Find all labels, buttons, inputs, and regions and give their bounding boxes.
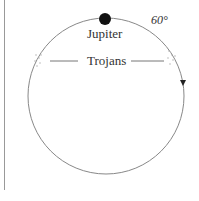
- direction-arrow-icon: [180, 80, 186, 86]
- angle-label: 60°: [151, 13, 168, 28]
- jupiter-dot: [99, 13, 111, 25]
- trojan-cluster-right-icon: [167, 50, 175, 64]
- trojan-cluster-left-icon: [34, 54, 41, 66]
- jupiter-label: Jupiter: [87, 26, 122, 42]
- trojans-label: Trojans: [87, 53, 126, 69]
